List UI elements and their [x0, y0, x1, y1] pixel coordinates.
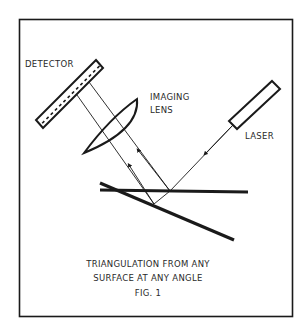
detector-label: DETECTOR [25, 59, 74, 70]
laser-beam-arrow [205, 125, 233, 154]
figure-number: FIG. 1 [0, 287, 302, 299]
caption-line1: TRIANGULATION FROM ANY [0, 258, 302, 270]
laser-beam-continuation [154, 191, 170, 204]
reflected-ray-horizontal-arrow [138, 150, 170, 191]
laser-shape [229, 81, 280, 129]
reflected-ray-tilted [77, 95, 154, 204]
imaging-lens-label-line1: IMAGING [150, 92, 190, 103]
caption-line2: SURFACE AT ANY ANGLE [0, 272, 302, 284]
imaging-lens-label-line2: LENS [150, 105, 173, 116]
imaging-lens-shape [84, 99, 137, 153]
laser-label: LASER [245, 131, 274, 142]
